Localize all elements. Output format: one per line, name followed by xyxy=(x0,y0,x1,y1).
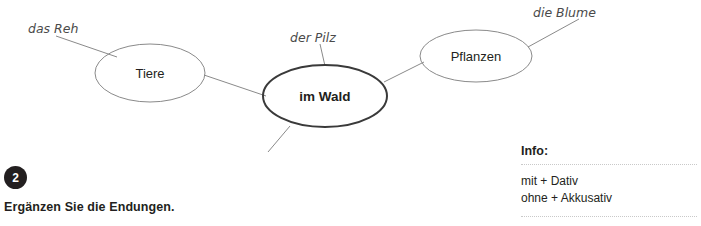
handwritten-label-der-pilz: der Pilz xyxy=(290,30,336,45)
node-label-tiere: Tiere xyxy=(135,66,164,81)
connector-der-pilz-to-im-wald xyxy=(320,44,325,66)
exercise-number-badge: 2 xyxy=(4,166,27,189)
info-line-ohne-akkusativ: ohne + Akkusativ xyxy=(521,190,697,207)
handwritten-label-das-reh: das Reh xyxy=(28,21,78,36)
info-box-title: Info: xyxy=(521,145,697,159)
node-label-im-wald: im Wald xyxy=(299,89,350,104)
node-label-pflanzen: Pflanzen xyxy=(451,49,502,64)
handwritten-label-die-blume: die Blume xyxy=(533,5,596,20)
connector-tiere-to-im-wald xyxy=(204,75,266,96)
info-line-mit-dativ: mit + Dativ xyxy=(521,173,697,190)
exercise-block: 2 Ergänzen Sie die Endungen. xyxy=(4,166,324,214)
info-divider-top xyxy=(521,164,697,165)
connector-im-wald-to-pflanzen xyxy=(384,62,424,82)
exercise-instruction: Ergänzen Sie die Endungen. xyxy=(4,200,324,214)
connector-blank-branch xyxy=(268,126,290,152)
info-divider-bottom xyxy=(521,216,697,217)
info-box: Info: mit + Dativ ohne + Akkusativ xyxy=(521,145,697,217)
connector-pflanzen-to-die-blume xyxy=(528,19,579,47)
info-box-content: mit + Dativ ohne + Akkusativ xyxy=(521,173,697,207)
